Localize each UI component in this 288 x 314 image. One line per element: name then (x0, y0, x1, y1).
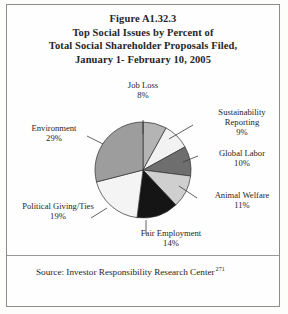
pie-label-sustainability-line2: Reporting (200, 117, 284, 127)
title-line-1: Figure A1.32.3 (14, 12, 272, 26)
pie-label-sustainability-line1: Sustainability (218, 107, 265, 117)
source-note: Source: Investor Responsibility Research… (36, 263, 225, 278)
pie-label-animal-welfare: Animal Welfare 11% (199, 190, 285, 210)
pie-label-global-labor-value: 10% (200, 158, 284, 168)
pie-label-sustainability-reporting: Sustainability Reporting 9% (200, 107, 284, 138)
pie-label-global-labor: Global Labor 10% (200, 148, 284, 168)
figure-page: Figure A1.32.3 Top Social Issues by Perc… (0, 0, 288, 314)
source-text: Source: Investor Responsibility Research… (36, 267, 215, 277)
pie-label-job-loss-value: 8% (112, 90, 174, 100)
pie-label-political-giving-text: Political Giving/Ties (22, 201, 94, 211)
title-line-3: Total Social Shareholder Proposals Filed… (14, 39, 272, 53)
source-divider (7, 255, 279, 256)
pie-label-fair-employment-value: 14% (131, 238, 211, 248)
pie-label-fair-employment-text: Fair Employment (141, 228, 201, 238)
pie-label-political-giving-value: 19% (10, 211, 106, 221)
pie-label-political-giving-ties: Political Giving/Ties 19% (10, 201, 106, 221)
pie-label-global-labor-text: Global Labor (219, 148, 265, 158)
pie-label-environment: Environment 29% (14, 123, 94, 143)
pie-label-fair-employment: Fair Employment 14% (131, 228, 211, 248)
pie-label-animal-welfare-value: 11% (199, 200, 285, 210)
pie-label-environment-value: 29% (14, 133, 94, 143)
pie-label-environment-text: Environment (32, 123, 77, 133)
pie-label-job-loss-text: Job Loss (128, 80, 158, 90)
pie-label-job-loss: Job Loss 8% (112, 80, 174, 100)
title-line-2: Top Social Issues by Percent of (14, 26, 272, 40)
pie-label-sustainability-value: 9% (200, 127, 284, 137)
pie-label-animal-welfare-text: Animal Welfare (215, 190, 270, 200)
pie-slice-group (95, 122, 191, 218)
source-footnote-marker: 271 (216, 265, 225, 272)
figure-title: Figure A1.32.3 Top Social Issues by Perc… (14, 12, 272, 66)
